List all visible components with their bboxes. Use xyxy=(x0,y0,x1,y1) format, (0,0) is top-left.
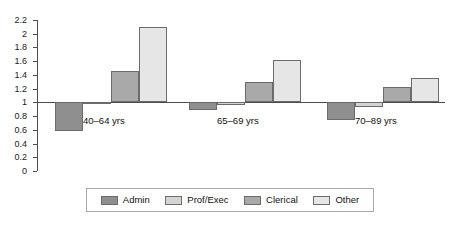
legend-swatch-clerical xyxy=(244,196,261,205)
legend-item-prof-exec: Prof/Exec xyxy=(165,195,228,205)
y-tick: 0.4 xyxy=(33,144,37,145)
plot-area: 00.20.40.60.811.21.41.61.822.2 40–64 yrs… xyxy=(37,20,445,171)
y-tick-label: 0.4 xyxy=(14,139,27,148)
y-tick: 0.2 xyxy=(33,157,37,158)
y-tick: 2.2 xyxy=(33,20,37,21)
category-label: 65–69 yrs xyxy=(217,116,259,126)
bar xyxy=(327,102,355,120)
legend-swatch-prof-exec xyxy=(165,196,182,205)
chart-legend: Admin Prof/Exec Clerical Other xyxy=(86,188,374,212)
bar xyxy=(83,102,111,104)
bar xyxy=(273,60,301,103)
legend-item-other: Other xyxy=(313,195,359,205)
y-tick-label: 1.6 xyxy=(14,57,27,66)
bar-chart: 00.20.40.60.811.21.41.61.822.2 40–64 yrs… xyxy=(0,0,452,230)
y-tick-label: 0.8 xyxy=(14,112,27,121)
legend-label-admin: Admin xyxy=(123,195,150,205)
y-tick-label: 1.8 xyxy=(14,43,27,52)
category-label: 40–64 yrs xyxy=(83,116,125,126)
bar xyxy=(245,82,273,103)
bar xyxy=(55,102,83,131)
bar xyxy=(411,78,439,102)
y-tick: 1.4 xyxy=(33,75,37,76)
legend-swatch-admin xyxy=(101,196,118,205)
y-tick-label: 1.4 xyxy=(14,70,27,79)
category-label: 70–89 yrs xyxy=(355,116,397,126)
y-tick: 1.2 xyxy=(33,89,37,90)
y-tick-label: 2.2 xyxy=(14,16,27,25)
y-tick: 0.6 xyxy=(33,130,37,131)
bar xyxy=(189,102,217,110)
legend-label-other: Other xyxy=(335,195,359,205)
y-tick-label: 1.2 xyxy=(14,84,27,93)
bar xyxy=(139,27,167,103)
y-axis-line xyxy=(37,20,38,171)
bar xyxy=(383,87,411,102)
y-tick-label: 0 xyxy=(22,167,27,176)
legend-item-clerical: Clerical xyxy=(244,195,298,205)
y-tick: 2 xyxy=(33,34,37,35)
legend-label-clerical: Clerical xyxy=(266,195,298,205)
y-tick: 1.8 xyxy=(33,47,37,48)
legend-item-admin: Admin xyxy=(101,195,150,205)
bar xyxy=(111,71,139,102)
y-tick-label: 0.2 xyxy=(14,153,27,162)
y-tick-label: 2 xyxy=(22,29,27,38)
y-tick: 0.8 xyxy=(33,116,37,117)
bar xyxy=(355,102,383,107)
bar xyxy=(217,102,245,105)
y-tick: 0 xyxy=(33,171,37,172)
legend-swatch-other xyxy=(313,196,330,205)
y-tick: 1.6 xyxy=(33,61,37,62)
y-tick-label: 1 xyxy=(22,98,27,107)
legend-label-prof-exec: Prof/Exec xyxy=(187,195,228,205)
y-tick-label: 0.6 xyxy=(14,125,27,134)
